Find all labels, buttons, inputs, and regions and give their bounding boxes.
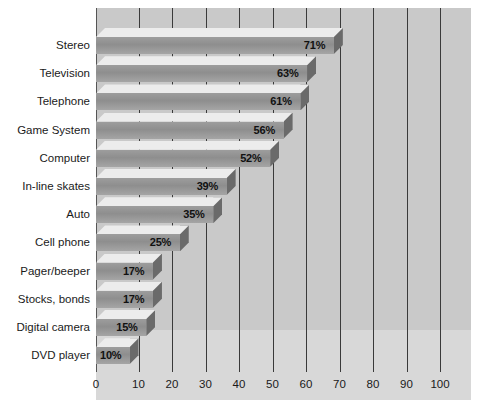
category-label: Television [0, 67, 90, 79]
bar: 17% [96, 282, 162, 302]
bar: 15% [96, 310, 155, 330]
category-label: Stereo [0, 39, 90, 51]
x-tick-30: 30 [199, 378, 212, 390]
bar: 71% [96, 28, 343, 48]
bar-front-face [96, 37, 334, 54]
x-tick-50: 50 [266, 378, 279, 390]
bar-top-face [96, 113, 293, 122]
gridline-100 [440, 8, 441, 372]
bar: 10% [96, 338, 139, 358]
bar: 35% [96, 197, 222, 217]
bar-top-face [96, 56, 316, 65]
bar: 52% [96, 141, 279, 161]
bar-value-label: 61% [270, 95, 291, 107]
bar-value-label: 71% [304, 39, 325, 51]
category-label: Pager/beeper [0, 265, 90, 277]
category-label: Telephone [0, 95, 90, 107]
category-label: In-line skates [0, 180, 90, 192]
bar: 17% [96, 254, 162, 274]
bar: 63% [96, 56, 316, 76]
bar-top-face [96, 254, 162, 263]
category-label: Game System [0, 124, 90, 136]
bar-top-face [96, 141, 279, 150]
x-tick-80: 80 [367, 378, 380, 390]
bar-value-label: 15% [116, 321, 137, 333]
gridline-90 [407, 8, 408, 372]
bar-value-label: 25% [150, 236, 171, 248]
bar: 56% [96, 113, 293, 133]
bar-top-face [96, 225, 189, 234]
category-label: Computer [0, 152, 90, 164]
bar: 39% [96, 169, 236, 189]
horizontal-bar-chart: 71%63%61%56%52%39%35%25%17%17%15%10% Ste… [0, 0, 489, 418]
bar-value-label: 17% [123, 293, 144, 305]
bar-value-label: 63% [277, 67, 298, 79]
bar-top-face [96, 28, 343, 37]
x-tick-70: 70 [333, 378, 346, 390]
x-tick-0: 0 [93, 378, 99, 390]
category-label: Cell phone [0, 236, 90, 248]
gridline-80 [373, 8, 374, 372]
bar-top-face [96, 169, 236, 178]
category-label: Stocks, bonds [0, 293, 90, 305]
bar-value-label: 52% [240, 152, 261, 164]
category-label: DVD player [0, 349, 90, 361]
bar-top-face [96, 282, 162, 291]
bar-value-label: 10% [100, 349, 121, 361]
bar-top-face [96, 84, 309, 93]
bar-value-label: 56% [254, 124, 275, 136]
x-tick-90: 90 [400, 378, 413, 390]
bar-top-face [96, 310, 155, 319]
bar-top-face [96, 197, 222, 206]
x-tick-40: 40 [233, 378, 246, 390]
bar: 25% [96, 225, 189, 245]
bar-value-label: 35% [183, 208, 204, 220]
x-tick-10: 10 [132, 378, 145, 390]
category-label: Auto [0, 208, 90, 220]
bar-value-label: 39% [197, 180, 218, 192]
plot-area-background-lower [96, 330, 471, 400]
bar-front-face [96, 65, 307, 82]
x-tick-20: 20 [166, 378, 179, 390]
x-tick-60: 60 [300, 378, 313, 390]
category-label: Digital camera [0, 321, 90, 333]
bar: 61% [96, 84, 309, 104]
bar-value-label: 17% [123, 265, 144, 277]
gridline-70 [340, 8, 341, 372]
x-tick-100: 100 [430, 378, 449, 390]
